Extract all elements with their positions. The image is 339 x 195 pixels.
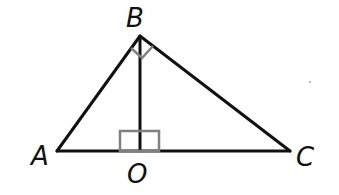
stray-dot (309, 81, 311, 83)
label-b: B (126, 3, 144, 33)
label-a: A (29, 141, 49, 171)
segment-ab (57, 36, 140, 151)
triangle-diagram: A B C O (0, 0, 339, 195)
segment-bc (140, 36, 290, 151)
label-o: O (127, 159, 147, 189)
right-angle-mark-b (131, 46, 153, 58)
label-c: C (296, 142, 315, 172)
